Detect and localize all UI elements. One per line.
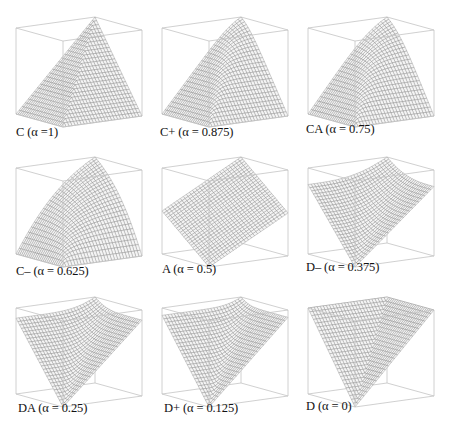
panel-label: C+ (α = 0.875) <box>160 125 233 140</box>
panel-label: C– (α = 0.625) <box>16 264 89 279</box>
panel-a: A (α = 0.5) <box>146 140 295 281</box>
panel-d-plus: D+ (α = 0.125) <box>146 280 295 421</box>
panel-c: C (α =1) <box>0 0 149 141</box>
surface-plot <box>146 0 295 141</box>
surface-plot <box>146 280 295 421</box>
surface-grid: C (α =1) C+ (α = 0.875) CA (α = 0.75) C–… <box>0 0 449 423</box>
panel-label: D (α = 0) <box>306 399 352 414</box>
panel-ca: CA (α = 0.75) <box>292 0 441 141</box>
surface-plot <box>146 140 295 281</box>
panel-da: DA (α = 0.25) <box>0 280 149 421</box>
panel-label: CA (α = 0.75) <box>306 122 375 137</box>
panel-label: DA (α = 0.25) <box>18 401 87 416</box>
panel-d: D (α = 0) <box>292 280 441 421</box>
surface-plot <box>0 0 149 141</box>
surface-plot <box>0 140 149 281</box>
panel-label: C (α =1) <box>16 125 58 140</box>
panel-c-plus: C+ (α = 0.875) <box>146 0 295 141</box>
panel-c-minus: C– (α = 0.625) <box>0 140 149 281</box>
panel-label: D+ (α = 0.125) <box>164 401 238 416</box>
panel-label: A (α = 0.5) <box>162 262 216 277</box>
panel-d-minus: D– (α = 0.375) <box>292 140 441 281</box>
surface-plot <box>0 280 149 421</box>
surface-plot <box>292 0 441 141</box>
panel-label: D– (α = 0.375) <box>306 260 379 275</box>
